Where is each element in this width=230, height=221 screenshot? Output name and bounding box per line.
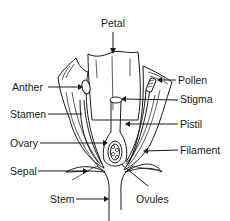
label-petal: Petal [101,17,125,29]
label-anther: Anther [12,81,43,93]
label-sepal: Sepal [10,165,37,177]
label-ovary: Ovary [10,137,39,149]
label-ovules: Ovules [136,193,169,205]
label-stem: Stem [50,193,75,205]
stem-shape [97,166,133,221]
label-filament: Filament [180,144,220,156]
label-pistil: Pistil [180,118,202,130]
flower-anatomy-diagram: Petal Anther Pollen Stigma Stamen Pistil… [0,0,230,221]
label-pollen: Pollen [178,74,207,86]
center-petal-shape [88,51,140,120]
label-stigma: Stigma [180,93,213,105]
label-stamen: Stamen [10,108,46,120]
